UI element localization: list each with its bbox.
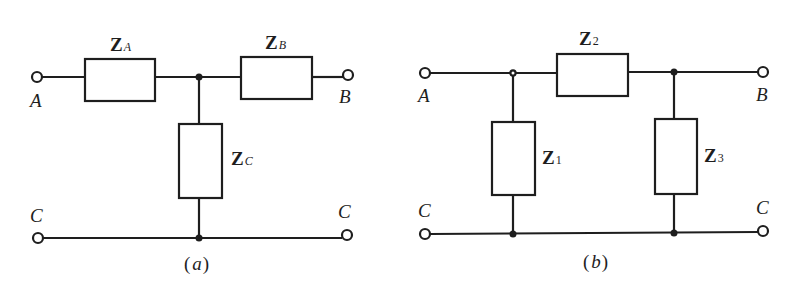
- label-zb: ZB: [265, 32, 287, 53]
- terminal-b-top-left: [420, 68, 430, 78]
- terminal-label-b: B: [339, 86, 351, 107]
- terminal-a-bottom-right: [342, 230, 352, 240]
- terminal-a-top-right: [343, 70, 353, 80]
- terminal-a-bottom-left: [33, 233, 43, 243]
- label-za: ZA: [110, 34, 132, 55]
- terminal-label-c-left: C: [30, 205, 43, 226]
- terminal-label-c-right: C: [338, 201, 351, 222]
- caption-b: (b): [583, 251, 608, 273]
- junction-b-bottom-right: [671, 230, 678, 237]
- junction-b-top-left: [510, 70, 515, 75]
- impedance-z1-box: [492, 122, 535, 195]
- terminal-label-b: B: [756, 84, 768, 105]
- terminal-b-bottom-right: [758, 226, 768, 236]
- terminal-b-bottom-left: [420, 229, 430, 239]
- impedance-zc-box: [179, 124, 222, 198]
- terminal-label-a: A: [28, 90, 42, 111]
- terminal-a-top-left: [32, 72, 42, 82]
- terminal-label-c-right: C: [756, 197, 769, 218]
- terminal-b-top-right: [758, 67, 768, 77]
- impedance-z2-box: [557, 54, 628, 96]
- terminal-label-c-left: C: [418, 200, 431, 221]
- figure-b-pi-network: Z2 Z1 Z3 A B C C (b): [416, 28, 769, 273]
- figure-a-t-network: ZA ZB ZC A B C C (a): [28, 32, 353, 275]
- label-z1: Z1: [542, 147, 562, 168]
- junction-b-bottom-left: [510, 231, 517, 238]
- label-z2: Z2: [579, 28, 599, 49]
- junction-a-top: [196, 74, 203, 81]
- terminal-label-a: A: [416, 85, 430, 106]
- junction-b-top-right: [671, 69, 678, 76]
- impedance-z3-box: [655, 119, 697, 194]
- wire-b-bottom: [430, 232, 758, 234]
- impedance-za-box: [85, 59, 155, 101]
- label-z3: Z3: [704, 145, 724, 166]
- label-zc: ZC: [231, 148, 254, 169]
- junction-a-bottom: [196, 235, 203, 242]
- circuit-diagrams: ZA ZB ZC A B C C (a): [0, 0, 800, 286]
- caption-a: (a): [184, 253, 209, 275]
- impedance-zb-box: [241, 57, 312, 99]
